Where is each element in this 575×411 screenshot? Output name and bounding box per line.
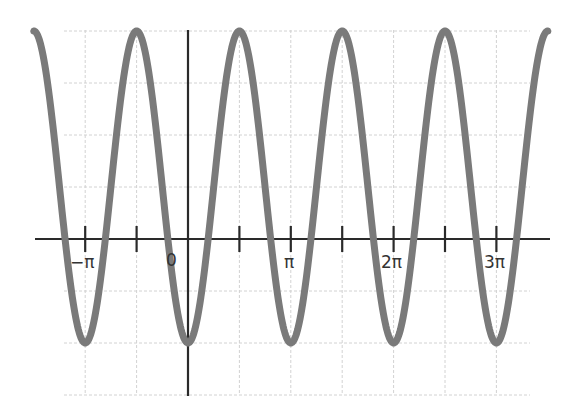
x-tick-labels: −π 0 π 2π 3π bbox=[70, 250, 505, 272]
chart: −π 0 π 2π 3π bbox=[0, 0, 575, 411]
tick-label-2pi: 2π bbox=[381, 252, 402, 272]
tick-label-zero: 0 bbox=[166, 250, 177, 270]
tick-label-3pi: 3π bbox=[484, 252, 505, 272]
tick-label-neg-pi: −π bbox=[70, 252, 94, 272]
tick-label-pi: π bbox=[284, 252, 294, 272]
